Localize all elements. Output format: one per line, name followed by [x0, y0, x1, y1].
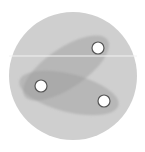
dot-bottom-right	[98, 95, 110, 107]
dot-top-right	[92, 42, 104, 54]
diagram-canvas	[0, 0, 145, 152]
dot-left	[35, 80, 47, 92]
venn-like-diagram	[0, 0, 145, 152]
